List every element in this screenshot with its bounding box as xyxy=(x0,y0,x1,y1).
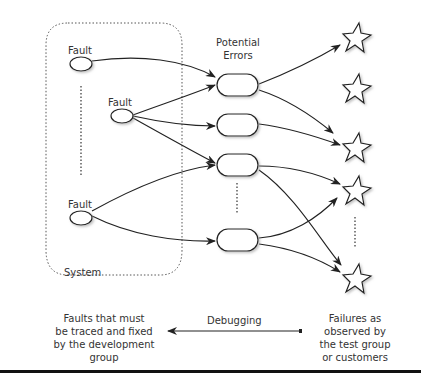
left-caption: Faults that must be traced and fixed by … xyxy=(48,312,160,364)
error-node xyxy=(217,74,258,96)
fault-label: Fault xyxy=(68,44,92,57)
fault-node xyxy=(70,57,92,71)
right-caption: Failures as observed by the test group o… xyxy=(315,312,395,364)
debugging-label: Debugging xyxy=(207,314,262,327)
potential-errors-label: Potential Errors xyxy=(215,36,261,62)
error-node xyxy=(217,114,258,136)
failure-star xyxy=(343,133,371,162)
fault-node xyxy=(70,211,92,225)
bottom-rule xyxy=(0,370,421,373)
system-label: System xyxy=(64,266,101,279)
fault-node xyxy=(111,109,133,123)
error-node xyxy=(217,229,258,251)
fault-label: Fault xyxy=(68,198,92,211)
failure-star xyxy=(343,74,371,103)
failure-star xyxy=(343,176,371,205)
fault-label: Fault xyxy=(108,96,132,109)
failure-star xyxy=(343,23,371,52)
error-node xyxy=(217,154,258,176)
failure-star xyxy=(343,264,371,293)
